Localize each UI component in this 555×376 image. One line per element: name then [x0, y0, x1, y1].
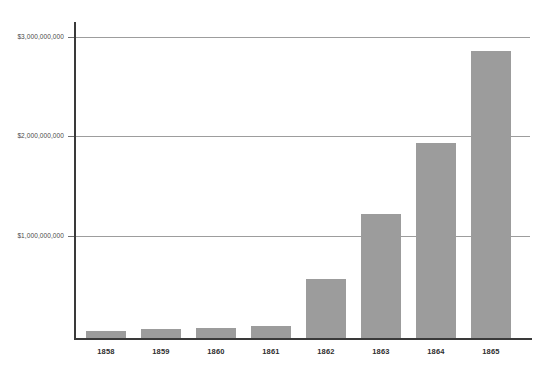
bar-1860 — [196, 328, 236, 338]
x-axis-label-1862: 1862 — [306, 347, 346, 356]
x-axis-label-1859: 1859 — [141, 347, 181, 356]
x-axis-label-1865: 1865 — [471, 347, 511, 356]
bar-1861 — [251, 326, 291, 338]
x-axis-label-1860: 1860 — [196, 347, 236, 356]
x-axis-label-1863: 1863 — [361, 347, 401, 356]
bar-chart: $3,000,000,000 $2,000,000,000 $1,000,000… — [0, 0, 555, 376]
bars-container — [0, 0, 555, 376]
bar-1864 — [416, 143, 456, 338]
x-axis-label-1864: 1864 — [416, 347, 456, 356]
bar-1862 — [306, 279, 346, 338]
bar-1863 — [361, 214, 401, 338]
x-axis-label-1858: 1858 — [86, 347, 126, 356]
bar-1865 — [471, 51, 511, 338]
x-axis-label-1861: 1861 — [251, 347, 291, 356]
bar-1859 — [141, 329, 181, 338]
bar-1858 — [86, 331, 126, 338]
